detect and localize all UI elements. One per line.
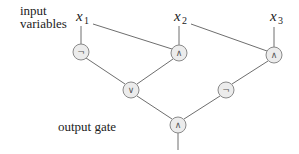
and-symbol-icon: ∧ [271,50,278,60]
edge-x2-and2 [191,24,267,51]
variable-name: x [75,8,83,24]
variable-subscript: 1 [84,15,89,26]
boolean-circuit-diagram: ¬ ∧ ∧ ∨ ¬ ∧ x 1 x 2 [0,0,299,154]
input-variables-label-line2: variables [20,16,67,31]
gate-not-2: ¬ [218,82,234,98]
gate-output: ∧ [170,117,186,133]
output-gate-label: output gate [58,119,116,134]
variable-subscript: 3 [278,15,283,26]
gate-or: ∨ [123,82,139,98]
and-symbol-icon: ∧ [176,48,183,58]
edge-or-out [137,96,172,119]
edge-x1-and1 [93,24,172,49]
gate-and-1: ∧ [171,45,187,61]
and-symbol-icon: ∧ [175,120,182,130]
variable-x3: x 3 [269,8,283,26]
gate-not-1: ¬ [73,44,89,60]
gate-and-2: ∧ [266,47,282,63]
circuit-svg: ¬ ∧ ∧ ∨ ¬ ∧ x 1 x 2 [0,0,299,154]
edge-not2-out [184,96,220,119]
variable-name: x [269,8,277,24]
variable-name: x [173,8,181,24]
not-symbol-icon: ¬ [222,85,230,95]
edge-and2-not2 [232,61,268,84]
edge-not1-or [86,58,125,84]
or-symbol-icon: ∨ [128,85,135,95]
not-symbol-icon: ¬ [77,47,85,57]
variable-x2: x 2 [173,8,187,26]
variable-subscript: 2 [182,15,187,26]
edge-and1-or [137,59,173,84]
variable-x1: x 1 [75,8,89,26]
